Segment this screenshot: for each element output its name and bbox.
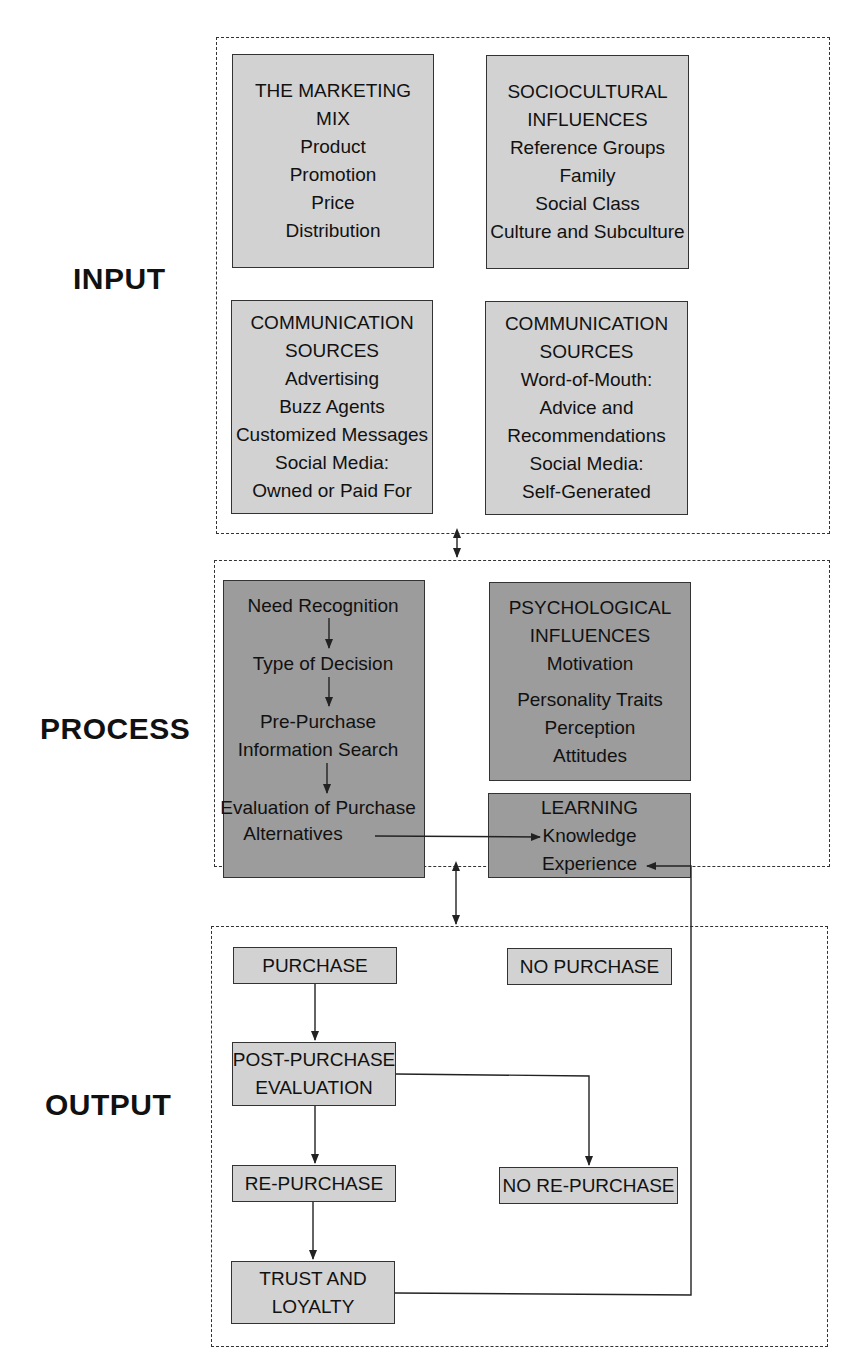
connector-lines bbox=[0, 0, 853, 1371]
